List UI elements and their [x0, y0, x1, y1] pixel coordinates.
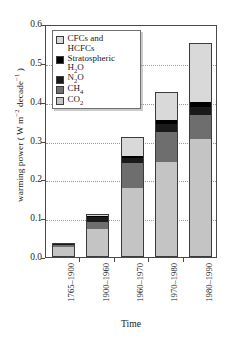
y-axis-tick-label: 0.6 [16, 20, 42, 29]
bar-1765–1900 [52, 243, 75, 257]
y-axis-tick-label: 0.3 [16, 137, 42, 146]
x-axis-tick-mark [148, 258, 149, 262]
bar-segment-CFCs and HCFCs [155, 92, 178, 120]
legend-swatch-ch4 [56, 86, 64, 94]
legend-item-n2o: N2O [56, 73, 137, 83]
legend-label-co2: CO2 [68, 95, 84, 105]
bar-segment-CH4 [86, 222, 109, 229]
chart-figure: warming power ( W m−2 decade−1 ) 0.60.50… [0, 0, 232, 340]
legend-label-strat-h2o: Stratospheric H2O [68, 54, 116, 73]
legend-label-cfcs: CFCs and HCFCs [68, 34, 104, 53]
legend-swatch-co2 [56, 97, 64, 105]
y-axis-tick-label: 0.2 [16, 175, 42, 184]
x-axis-tick-mark [79, 258, 80, 262]
bar-segment-CH4 [155, 132, 178, 162]
legend-swatch-strat-h2o [56, 56, 64, 64]
x-axis-tick-label: 1970–1980 [169, 263, 179, 315]
y-axis-tick-label: 0.5 [16, 59, 42, 68]
x-axis-tick-label: 1900–1960 [101, 263, 111, 315]
legend-label-n2o: N2O [68, 73, 84, 83]
chart-legend: CFCs and HCFCsStratospheric H2ON2OCH4CO2 [52, 30, 141, 109]
x-axis-tick-label: 1765–1900 [66, 263, 76, 315]
bar-1970–1980 [155, 92, 178, 257]
bar-1960–1970 [121, 137, 144, 257]
legend-item-cfcs: CFCs and HCFCs [56, 34, 137, 53]
bar-segment-CO2 [121, 188, 144, 257]
x-axis-title: Time [45, 318, 217, 329]
legend-swatch-n2o [56, 76, 64, 84]
legend-item-co2: CO2 [56, 95, 137, 105]
legend-label-ch4: CH4 [68, 84, 84, 94]
y-axis-tick-label: 0.1 [16, 214, 42, 223]
x-axis-tick-label: 1980–1990 [204, 263, 214, 315]
bar-segment-CH4 [121, 163, 144, 188]
bar-segment-N2O [155, 124, 178, 132]
y-axis-tick-label: 0.4 [16, 98, 42, 107]
bar-segment-CO2 [86, 229, 109, 257]
x-axis-tick-mark [114, 258, 115, 262]
x-axis-tick-label: 1960–1970 [135, 263, 145, 315]
bar-1980–1990 [189, 43, 212, 257]
legend-item-ch4: CH4 [56, 84, 137, 94]
y-axis-tick-labels: 0.60.50.40.30.20.10.0 [14, 0, 42, 268]
bar-segment-N2O [189, 107, 212, 115]
bar-1900–1960 [86, 214, 109, 257]
bar-segment-CO2 [189, 139, 212, 257]
x-axis-tick-mark [183, 258, 184, 262]
legend-swatch-cfcs [56, 36, 64, 44]
legend-item-strat-h2o: Stratospheric H2O [56, 54, 137, 73]
bar-segment-CFCs and HCFCs [121, 137, 144, 156]
x-axis-tick-labels: 1765–19001900–19601960–19701970–19801980… [45, 263, 217, 315]
y-axis-tick-label: 0.0 [16, 253, 42, 262]
bar-segment-CO2 [155, 162, 178, 257]
bar-segment-CH4 [189, 115, 212, 139]
bar-segment-CO2 [52, 247, 75, 257]
bar-segment-CFCs and HCFCs [189, 43, 212, 102]
